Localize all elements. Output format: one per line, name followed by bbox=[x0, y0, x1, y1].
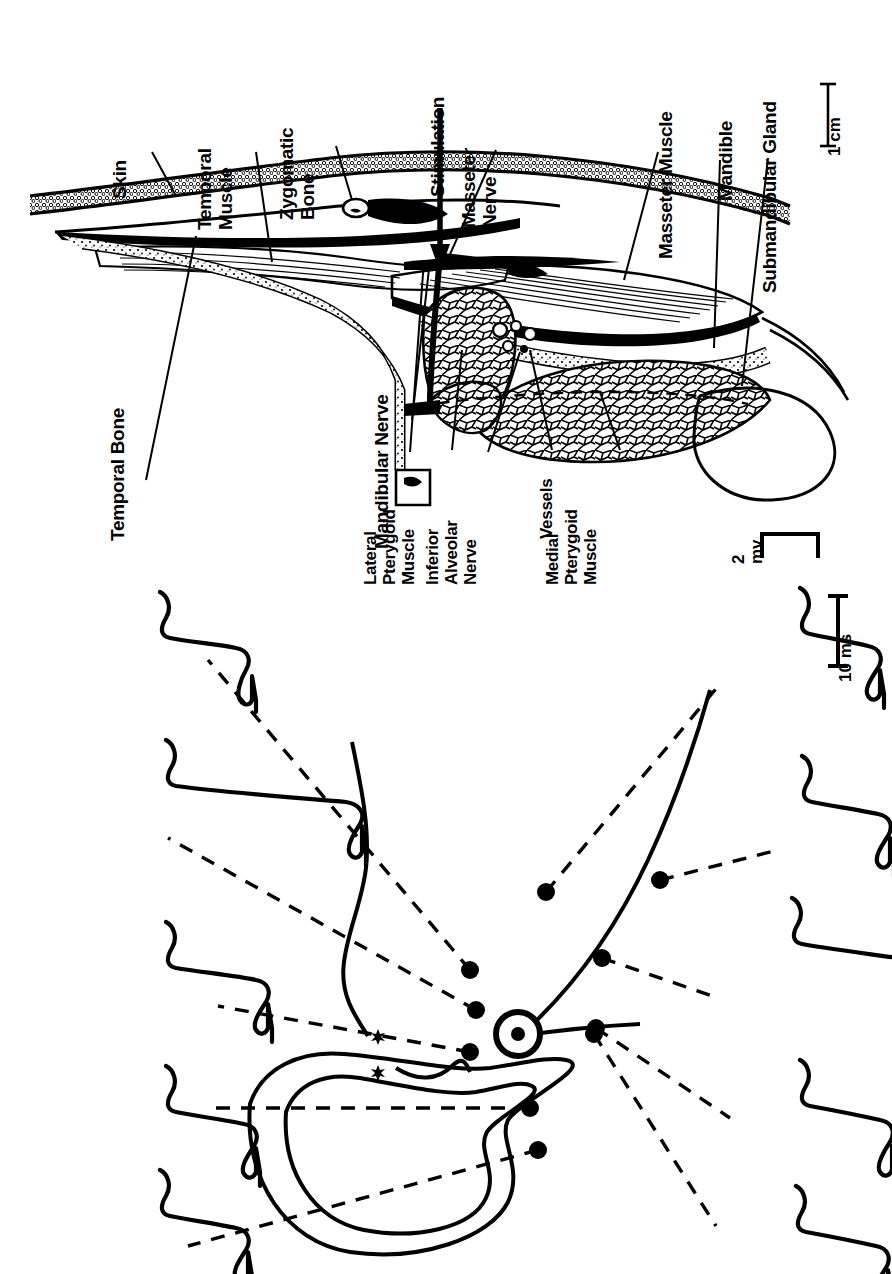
emg-trace bbox=[796, 1186, 892, 1274]
recording-site bbox=[529, 1141, 547, 1159]
recording-site bbox=[585, 1025, 603, 1043]
recording-site bbox=[651, 871, 669, 889]
emg-trace bbox=[802, 756, 892, 876]
emg-trace bbox=[160, 592, 256, 712]
emg-outline-contours bbox=[343, 690, 710, 1036]
emg-trace bbox=[166, 922, 272, 1042]
emg-leader-lines-right bbox=[546, 684, 778, 1226]
emg-trace bbox=[166, 740, 366, 866]
time-scale-label: 10 ms bbox=[836, 634, 856, 682]
amplitude-scale-bracket bbox=[762, 534, 818, 558]
emg-panel-layer bbox=[0, 0, 892, 1274]
recording-site bbox=[467, 1001, 485, 1019]
emg-trace bbox=[160, 1170, 252, 1274]
emg-trace bbox=[792, 898, 892, 1024]
emg-recording-sites-right[interactable] bbox=[537, 871, 669, 1043]
recording-site bbox=[521, 1099, 539, 1117]
emg-cross-section-outline bbox=[249, 1053, 572, 1254]
recording-site bbox=[461, 1043, 479, 1061]
figure-canvas: Skin Temporal Muscle Zygomatic Bone Stim… bbox=[0, 0, 892, 1274]
stimulation-site-bullseye-icon[interactable] bbox=[496, 1012, 540, 1056]
recording-site bbox=[461, 961, 479, 979]
recording-site bbox=[537, 883, 555, 901]
amplitude-scale-label: 2 mv bbox=[730, 539, 766, 564]
recording-site bbox=[593, 949, 611, 967]
emg-trace bbox=[800, 1060, 892, 1184]
emg-trace bbox=[166, 1066, 260, 1186]
emg-traces-right bbox=[792, 588, 892, 1274]
